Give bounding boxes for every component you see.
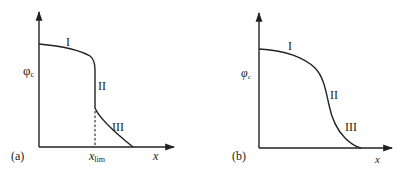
panel-b-region-III: III [345,120,357,134]
panel-a-x-axis-label: x [152,149,159,163]
panel-a-y-axis-label: φc [23,63,35,79]
figure-canvas: I II III φc (a) xlim x I II III φc (b) x [0,0,398,169]
panel-a-region-II: II [98,79,106,93]
panel-a-region-I: I [66,35,70,49]
panel-b-x-axis-label: x [374,153,380,165]
panel-a-xlim-subscript: lim [94,155,105,164]
panel-a: I II III φc (a) xlim x [11,12,174,164]
panel-a-xlim-label: xlim [88,149,106,164]
panel-b-region-II: II [330,88,338,102]
panel-b-y-axis-label: φc [241,66,251,81]
panel-a-region-III: III [112,120,124,134]
panel-b-region-I: I [288,39,292,53]
panel-b-label: (b) [232,149,246,163]
panel-b: I II III φc (b) x [232,13,392,165]
panel-a-phi-subscript: c [31,70,35,79]
panel-b-phi-subscript: c [248,73,251,81]
panel-a-phi: φ [23,63,31,78]
panel-a-label: (a) [11,149,24,163]
